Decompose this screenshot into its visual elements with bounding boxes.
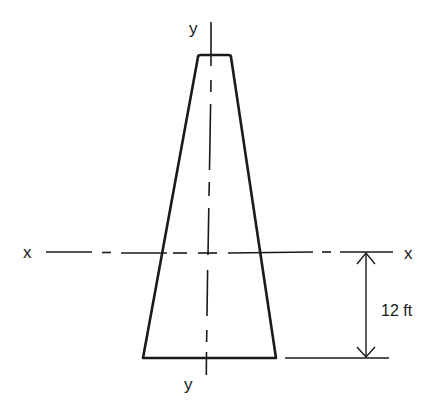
x-axis-centerline — [46, 252, 393, 253]
x-axis-right-label: x — [404, 244, 413, 263]
dimension-line-12ft — [357, 253, 375, 357]
y-axis-top-label: y — [189, 19, 198, 38]
trapezoid-section-outline — [143, 55, 276, 358]
tapered-section-diagram: y y x x 12 ft — [0, 0, 441, 403]
x-axis-left-label: x — [23, 243, 32, 262]
y-axis-bottom-label: y — [184, 375, 193, 394]
y-axis-centerline — [206, 22, 211, 375]
dimension-label: 12 ft — [381, 302, 413, 319]
